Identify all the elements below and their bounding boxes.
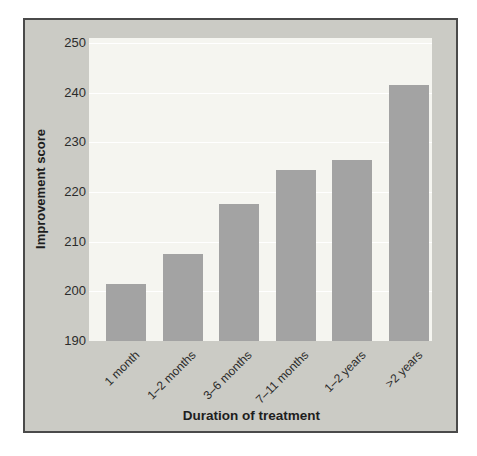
bar-1-2-years (332, 160, 372, 341)
gridline-230 (89, 142, 432, 143)
bar--2-years (389, 85, 429, 341)
y-tick-label: 250 (36, 35, 86, 51)
gridline-220 (89, 192, 432, 193)
bar-7-11-months (276, 170, 316, 341)
figure: 190200210220230240250 1 month1–2 months3… (0, 0, 477, 456)
y-tick-label: 190 (36, 333, 86, 349)
bar-1-2-months (163, 254, 203, 341)
y-tick-label: 240 (36, 85, 86, 101)
y-axis-title: Improvement score (33, 129, 48, 249)
x-axis-title: Duration of treatment (80, 408, 423, 423)
gridline-240 (89, 93, 432, 94)
plot-area (89, 38, 432, 341)
bar-3-6-months (219, 204, 259, 341)
gridline-250 (89, 43, 432, 44)
gridline-210 (89, 242, 432, 243)
bar-1-month (106, 284, 146, 341)
y-tick-label: 200 (36, 283, 86, 299)
